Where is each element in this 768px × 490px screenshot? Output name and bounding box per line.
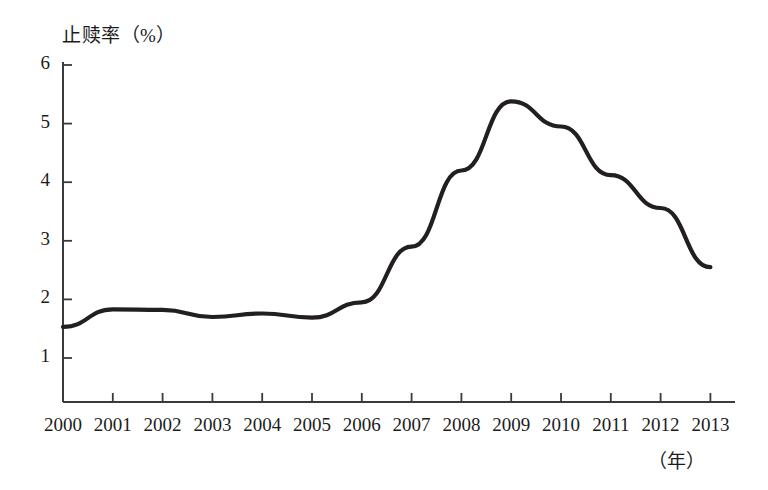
chart-container: 止赎率（%） 654321 20002001200220032004200520… xyxy=(0,0,768,490)
x-axis-unit-label: （年） xyxy=(648,446,705,473)
data-series-line xyxy=(63,101,710,327)
y-tick-label: 6 xyxy=(28,52,50,74)
x-tick-label: 2013 xyxy=(680,414,740,436)
y-tick-label: 1 xyxy=(28,345,50,367)
y-tick-label: 3 xyxy=(28,228,50,250)
y-axis-ticks xyxy=(63,65,72,358)
x-axis-ticks xyxy=(63,393,710,402)
y-tick-label: 4 xyxy=(28,169,50,191)
y-tick-label: 2 xyxy=(28,286,50,308)
y-tick-label: 5 xyxy=(28,111,50,133)
chart-axes xyxy=(63,62,735,402)
